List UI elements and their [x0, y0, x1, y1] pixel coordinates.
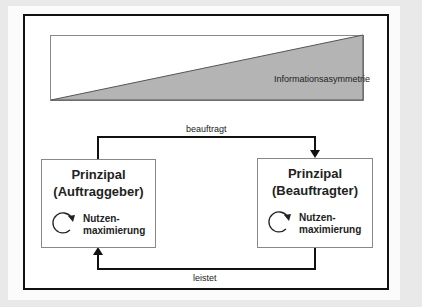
cycle-arrow-icon	[266, 208, 294, 236]
leistet-connector	[98, 247, 315, 269]
beauftragt-label: beauftragt	[186, 124, 227, 134]
cycle-label: Nutzen- maximierung	[83, 213, 145, 237]
arrowhead-up-icon	[93, 247, 103, 255]
box-subtitle: (Beauftragter)	[258, 182, 372, 199]
cycle-label-line2: maximierung	[299, 224, 361, 236]
cycle-arrow-icon	[50, 209, 78, 237]
box-title: Prinzipal	[258, 165, 372, 182]
cycle-label: Nutzen- maximierung	[299, 212, 361, 236]
cycle-label-line2: maximierung	[83, 225, 145, 237]
cycle-label-line1: Nutzen-	[83, 213, 145, 225]
arrowhead-down-icon	[310, 150, 320, 158]
box-title: Prinzipal	[42, 166, 155, 183]
principal-box-left: Prinzipal (Auftraggeber) Nutzen- maximie…	[41, 159, 156, 248]
principal-box-right: Prinzipal (Beauftragter) Nutzen- maximie…	[257, 158, 373, 248]
asymmetry-label: Informationsasymmetrie	[274, 74, 370, 84]
box-subtitle: (Auftraggeber)	[42, 183, 155, 200]
beauftragt-connector	[98, 137, 315, 159]
diagram-graphics	[0, 0, 422, 307]
leistet-label: leistet	[193, 273, 217, 283]
cycle-label-line1: Nutzen-	[299, 212, 361, 224]
